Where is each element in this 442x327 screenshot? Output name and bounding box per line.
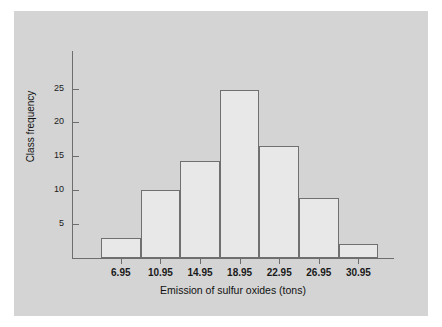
x-axis-title: Emission of sulfur oxides (tons) (72, 284, 394, 297)
x-tick (160, 259, 161, 264)
histogram-bar (180, 161, 220, 258)
y-tick-20 (73, 122, 79, 123)
x-tick (279, 259, 280, 264)
y-axis-title: Class frequency (25, 67, 36, 187)
histogram-bar (339, 244, 379, 258)
y-tick-label: 25 (42, 84, 64, 93)
y-axis-line (72, 51, 73, 259)
x-tick-label: 30.95 (335, 267, 381, 279)
y-tick-10 (73, 190, 79, 191)
histogram-bar (299, 198, 339, 258)
y-tick-label: 15 (42, 151, 64, 160)
y-tick-5 (73, 224, 79, 225)
figure-plate: 510152025 6.9510.9514.9518.9522.9526.953… (14, 11, 428, 316)
histogram-bar (141, 190, 181, 258)
x-tick (319, 259, 320, 264)
histogram-bar (259, 146, 299, 258)
y-tick-label: 10 (42, 185, 64, 194)
x-tick (200, 259, 201, 264)
histogram-bar (220, 90, 260, 258)
histogram-bar (101, 238, 141, 258)
y-tick-label: 5 (42, 219, 64, 228)
y-tick-25 (73, 89, 79, 90)
y-tick-15 (73, 156, 79, 157)
plot-area: 510152025 6.9510.9514.9518.9522.9526.953… (14, 11, 428, 316)
x-tick (121, 259, 122, 264)
x-tick (240, 259, 241, 264)
y-tick-label: 20 (42, 117, 64, 126)
x-tick (358, 259, 359, 264)
